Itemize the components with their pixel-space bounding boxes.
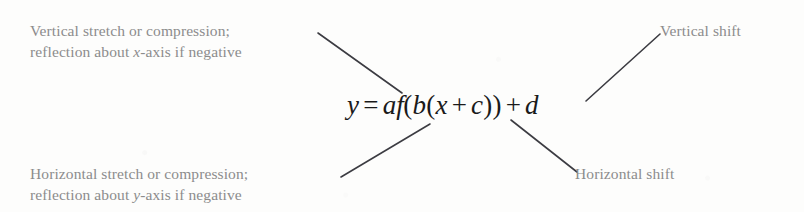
line-vertical-stretch-to-a (318, 33, 402, 93)
annotation-horizontal-stretch-line2-prefix: reflection about (30, 186, 133, 203)
equation-constant-d: d (525, 90, 539, 120)
equation-coefficient-b: b (413, 90, 427, 120)
equation-plus-inner: + (448, 90, 471, 120)
line-horizontal-shift-to-c (511, 120, 577, 172)
equation-close-paren-outer: ) (492, 90, 501, 120)
annotation-horizontal-stretch: Horizontal stretch or compression; refle… (30, 163, 248, 205)
annotation-vertical-stretch-line2: reflection about x-axis if negative (30, 41, 242, 62)
equation-equals-sign: = (359, 90, 382, 120)
annotation-vertical-stretch-line1: Vertical stretch or compression; (30, 20, 242, 41)
annotation-vertical-stretch: Vertical stretch or compression; reflect… (30, 20, 242, 62)
equation-constant-c: c (471, 90, 483, 120)
equation-expression: y=af(b(x+c))+d (347, 90, 539, 120)
equation-plus-outer: + (502, 90, 525, 120)
annotation-vertical-stretch-line2-prefix: reflection about (30, 43, 133, 60)
line-horizontal-stretch-to-b (341, 124, 430, 177)
annotation-vertical-stretch-line2-suffix: -axis if negative (140, 43, 242, 60)
equation-variable-x: x (435, 90, 447, 120)
transformation-equation-figure: Vertical stretch or compression; reflect… (0, 0, 804, 212)
annotation-horizontal-stretch-line1: Horizontal stretch or compression; (30, 163, 248, 184)
equation-coefficient-a: a (383, 90, 397, 120)
equation-open-paren-outer: ( (403, 90, 412, 120)
annotation-horizontal-stretch-line2-suffix: -axis if negative (140, 186, 242, 203)
equation-lhs-y: y (347, 90, 359, 120)
annotation-horizontal-shift: Horizontal shift (575, 163, 674, 184)
annotation-vertical-shift-label: Vertical shift (660, 20, 741, 41)
annotation-vertical-shift: Vertical shift (660, 20, 741, 41)
annotation-horizontal-stretch-line2: reflection about y-axis if negative (30, 184, 248, 205)
line-vertical-shift-to-d (586, 34, 660, 101)
annotation-horizontal-shift-label: Horizontal shift (575, 163, 674, 184)
